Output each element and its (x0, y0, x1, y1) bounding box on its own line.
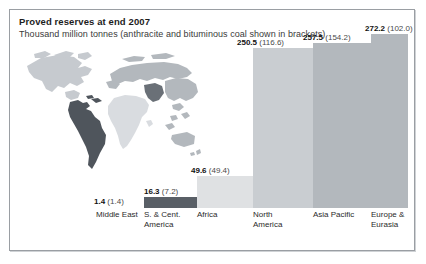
bar-fill-south-and-central-america (144, 197, 197, 208)
bar-category-europe-and-eurasia: Europe & Eurasia (371, 210, 415, 229)
bar-value-number-south-and-central-america: 16.3 (144, 187, 160, 196)
bar-fill-north-america (253, 48, 313, 208)
bar-middle-east[interactable]: 1.4 (1.4) Middle East (96, 207, 144, 208)
bar-value-bracket-asia-pacific: (154.2) (325, 33, 350, 42)
bar-value-asia-pacific: 257.5 (154.2) (303, 33, 351, 42)
bar-value-north-america: 250.5 (116.6) (237, 38, 284, 47)
bar-south-and-central-america[interactable]: 16.3 (7.2) S. & Cent. America (144, 197, 197, 208)
screenshot-root: Proved reserves at end 2007 Thousand mil… (0, 0, 426, 264)
bar-category-africa: Africa (197, 210, 259, 220)
bar-value-south-and-central-america: 16.3 (7.2) (144, 187, 178, 196)
chart-panel: Proved reserves at end 2007 Thousand mil… (9, 9, 415, 251)
bar-north-america[interactable]: 250.5 (116.6) North America (253, 48, 313, 208)
bar-value-europe-and-eurasia: 272.2 (102.0) (365, 24, 413, 33)
bar-value-bracket-south-and-central-america: (7.2) (162, 187, 178, 196)
bar-fill-africa (197, 176, 253, 208)
bar-value-number-europe-and-eurasia: 272.2 (365, 24, 385, 33)
bar-fill-asia-pacific (313, 43, 371, 208)
bar-value-middle-east: 1.4 (1.4) (94, 197, 124, 206)
bar-asia-pacific[interactable]: 257.5 (154.2) Asia Pacific (313, 43, 371, 208)
plot-area: 1.4 (1.4) Middle East 16.3 (7.2) S. & Ce… (10, 10, 414, 250)
bar-value-number-asia-pacific: 257.5 (303, 33, 323, 42)
map-region-north-america (27, 51, 92, 100)
bar-africa[interactable]: 49.6 (49.4) Africa (197, 176, 253, 208)
bar-fill-middle-east (96, 207, 144, 208)
bar-value-number-africa: 49.6 (191, 166, 207, 175)
bar-category-north-america: North America (253, 210, 315, 229)
bar-chart: 1.4 (1.4) Middle East 16.3 (7.2) S. & Ce… (96, 34, 408, 230)
bar-category-asia-pacific: Asia Pacific (313, 210, 375, 220)
bar-value-africa: 49.6 (49.4) (191, 166, 230, 175)
bar-value-bracket-north-america: (116.6) (259, 38, 284, 47)
bar-value-number-north-america: 250.5 (237, 38, 257, 47)
bar-value-bracket-africa: (49.4) (209, 166, 230, 175)
bar-fill-europe-and-eurasia (371, 34, 408, 208)
bar-value-number-middle-east: 1.4 (94, 197, 105, 206)
bar-europe-and-eurasia[interactable]: 272.2 (102.0) Europe & Eurasia (371, 34, 408, 208)
bar-value-bracket-middle-east: (1.4) (107, 197, 123, 206)
bar-value-bracket-europe-and-eurasia: (102.0) (387, 24, 412, 33)
